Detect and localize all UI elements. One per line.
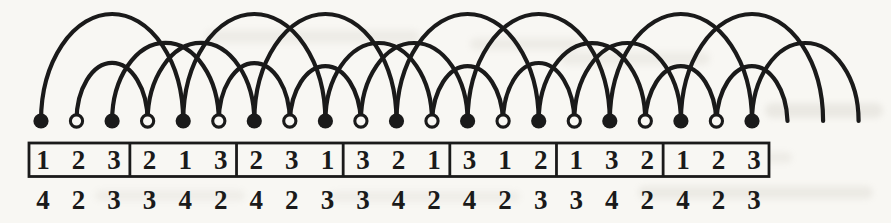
table-cell-number-7: 2: [250, 145, 264, 175]
vertex-open-6: [213, 115, 225, 127]
vertex-filled-3: [105, 113, 120, 128]
arc-from-vertex-21-span-3: [752, 43, 859, 121]
table-cell-number-17: 3: [605, 145, 619, 175]
arc-from-vertex-10-span-3: [361, 43, 468, 121]
table-cell-number-5: 1: [178, 145, 192, 175]
arc-length-number-1: 4: [36, 185, 50, 215]
table-cell-number-19: 1: [676, 145, 690, 175]
table-cell-number-13: 3: [463, 145, 477, 175]
table-cell-number-8: 3: [285, 145, 299, 175]
table-cell-number-6: 3: [214, 145, 228, 175]
arc-length-number-16: 3: [570, 185, 584, 215]
arc-length-number-19: 4: [676, 185, 690, 215]
vertex-filled-19: [673, 113, 688, 128]
arc-length-number-11: 4: [392, 185, 406, 215]
arc-length-number-15: 3: [534, 185, 548, 215]
table-cell-number-11: 2: [392, 145, 406, 175]
arc-length-number-6: 2: [214, 185, 228, 215]
table-cell-number-3: 3: [107, 145, 121, 175]
arc-length-number-4: 3: [143, 185, 157, 215]
arc-length-number-17: 4: [605, 185, 619, 215]
scanned-figure-page: 1232132313213121321234233424233424233424…: [0, 0, 891, 223]
vertex-open-4: [142, 115, 154, 127]
vertex-open-20: [710, 115, 722, 127]
vertex-open-10: [355, 115, 367, 127]
arc-from-vertex-9-span-3: [325, 43, 432, 121]
vertex-filled-21: [744, 113, 759, 128]
vertex-open-8: [284, 115, 296, 127]
arc-length-number-13: 4: [463, 185, 477, 215]
arc-length-number-10: 3: [356, 185, 370, 215]
vertex-filled-13: [460, 113, 475, 128]
table-cell-number-1: 1: [36, 145, 50, 175]
arc-length-number-5: 4: [178, 185, 192, 215]
arc-length-number-20: 2: [712, 185, 726, 215]
arc-length-number-18: 2: [641, 185, 655, 215]
table-cell-number-21: 3: [747, 145, 761, 175]
vertex-open-16: [568, 115, 580, 127]
arc-length-number-3: 3: [107, 185, 121, 215]
table-cell-number-10: 3: [356, 145, 370, 175]
vertex-open-12: [426, 115, 438, 127]
vertex-filled-9: [318, 113, 333, 128]
arc-length-number-21: 3: [747, 185, 761, 215]
arc-length-number-8: 2: [285, 185, 299, 215]
vertex-open-14: [497, 115, 509, 127]
table-cell-number-4: 2: [143, 145, 157, 175]
vertex-filled-11: [389, 113, 404, 128]
arc-from-vertex-16-span-3: [574, 43, 681, 121]
vertex-filled-5: [176, 113, 191, 128]
vertex-filled-17: [602, 113, 617, 128]
arc-from-vertex-3-span-3: [112, 43, 219, 121]
vertex-filled-1: [33, 113, 48, 128]
arc-length-number-9: 3: [321, 185, 335, 215]
table-cell-number-14: 1: [498, 145, 512, 175]
table-cell-number-20: 2: [712, 145, 726, 175]
table-cell-number-18: 2: [641, 145, 655, 175]
arc-from-vertex-15-span-3: [539, 43, 646, 121]
vertex-open-2: [70, 115, 82, 127]
table-cell-number-2: 2: [72, 145, 86, 175]
arc-length-number-2: 2: [72, 185, 86, 215]
arc-diagram-figure: 1232132313213121321234233424233424233424…: [0, 0, 891, 223]
arc-length-number-12: 2: [427, 185, 441, 215]
arc-from-vertex-4-span-3: [148, 43, 255, 121]
arc-length-number-7: 4: [250, 185, 264, 215]
table-cell-number-15: 2: [534, 145, 548, 175]
vertex-filled-7: [247, 113, 262, 128]
vertex-filled-15: [531, 113, 546, 128]
vertex-open-18: [639, 115, 651, 127]
table-cell-number-16: 1: [570, 145, 584, 175]
table-cell-number-12: 1: [427, 145, 441, 175]
table-cell-number-9: 1: [321, 145, 335, 175]
arc-length-number-14: 2: [498, 185, 512, 215]
